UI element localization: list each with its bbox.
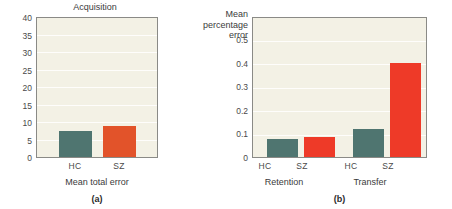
panel-a-plot-area <box>36 17 158 158</box>
panel-b-letter: (b) <box>252 194 427 204</box>
panel-a-ytick-40: 40 <box>10 14 32 22</box>
bar-transfer-sz <box>390 63 421 157</box>
panel-b-ylabel-line2: percentage <box>182 20 248 31</box>
panel-a-ytick-35: 35 <box>10 32 32 40</box>
panel-b-ytick-02: 0.2 <box>224 107 248 115</box>
panel-a-ytick-20: 20 <box>10 84 32 92</box>
panel-b-plot-area <box>252 17 427 158</box>
panel-b-ytick-01: 0.1 <box>224 130 248 138</box>
panel-b-group-transfer: Transfer <box>336 177 404 187</box>
panel-b-ytick-00: 0 <box>224 154 248 162</box>
bar-acquisition-sz <box>103 126 136 157</box>
panel-b-xtick-transfer-sz: SZ <box>372 161 404 171</box>
panel-b-xtick-retention-hc: HC <box>249 161 281 171</box>
panel-b-group-retention: Retention <box>250 177 318 187</box>
panel-a-ytick-5: 5 <box>10 137 32 145</box>
panel-b-xtick-retention-sz: SZ <box>286 161 318 171</box>
panel-a-ytick-0: 0 <box>10 154 32 162</box>
panel-a: Acquisition 40 35 30 25 20 15 10 5 0 HC <box>0 0 200 209</box>
bar-acquisition-hc <box>59 131 92 157</box>
panel-a-xtick-sz: SZ <box>102 161 136 171</box>
panel-a-bars <box>37 18 157 157</box>
panel-b-ytick-04: 0.4 <box>224 60 248 68</box>
panel-b-xtick-transfer-hc: HC <box>335 161 367 171</box>
panel-a-ytick-30: 30 <box>10 49 32 57</box>
bar-retention-sz <box>304 137 335 157</box>
figure-root: Acquisition 40 35 30 25 20 15 10 5 0 HC <box>0 0 452 209</box>
panel-b-ytick-03: 0.3 <box>224 83 248 91</box>
panel-b: Mean percentage error 0.5 0.4 0.3 0.2 0.… <box>200 0 452 209</box>
panel-b-bars <box>253 18 426 157</box>
panel-a-xtick-hc: HC <box>58 161 92 171</box>
panel-b-ylabel-line1: Mean <box>182 9 248 20</box>
panel-b-ytick-05: 0.5 <box>224 36 248 44</box>
panel-a-axis-caption: Mean total error <box>36 177 158 187</box>
panel-a-ytick-15: 15 <box>10 102 32 110</box>
panel-a-letter: (a) <box>36 194 158 204</box>
panel-a-title: Acquisition <box>30 2 160 12</box>
panel-a-ytick-25: 25 <box>10 67 32 75</box>
bar-retention-hc <box>267 139 298 157</box>
bar-transfer-hc <box>353 129 384 157</box>
panel-a-ytick-10: 10 <box>10 119 32 127</box>
